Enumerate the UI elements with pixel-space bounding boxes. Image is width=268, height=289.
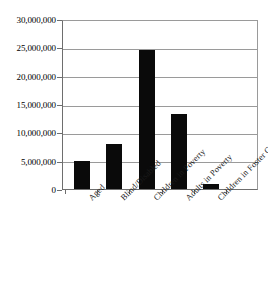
bar: [106, 144, 122, 189]
x-axis-labels: AgedBlind/DisabledChildren in PovertyAdu…: [0, 190, 268, 289]
y-axis-tick-label: 30,000,000: [0, 16, 56, 25]
y-axis-tick-label: 10,000,000: [0, 129, 56, 138]
y-axis-tick-label: 25,000,000: [0, 44, 56, 53]
y-axis-tick-label: 5,000,000: [0, 157, 56, 166]
bar: [74, 161, 90, 189]
y-axis-tick-label: 20,000,000: [0, 72, 56, 81]
bar-chart: 05,000,00010,000,00015,000,00020,000,000…: [0, 0, 268, 289]
y-axis-tick-label: 15,000,000: [0, 101, 56, 110]
